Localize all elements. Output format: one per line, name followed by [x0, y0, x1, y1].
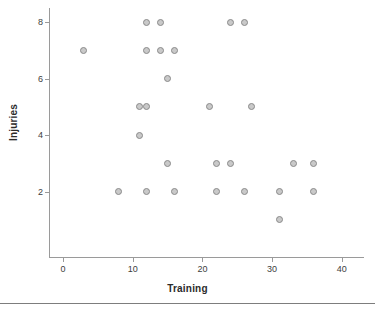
x-tick-mark	[202, 258, 203, 262]
data-point	[143, 19, 150, 26]
data-point	[164, 160, 171, 167]
scatter-plot-figure: 2468 010203040 Injuries Training	[0, 0, 375, 309]
data-point	[157, 47, 164, 54]
data-point	[157, 19, 164, 26]
x-tick-label: 20	[187, 264, 217, 274]
y-tick-mark	[45, 22, 49, 23]
data-point	[143, 188, 150, 195]
data-point	[310, 160, 317, 167]
y-axis-title: Injuries	[8, 93, 19, 153]
data-point	[213, 188, 220, 195]
x-tick-mark	[133, 258, 134, 262]
footer-divider	[0, 303, 375, 304]
y-tick-mark	[45, 192, 49, 193]
data-point	[227, 160, 234, 167]
data-point	[276, 188, 283, 195]
data-point	[213, 160, 220, 167]
data-point	[206, 103, 213, 110]
x-tick-label: 30	[257, 264, 287, 274]
x-tick-mark	[272, 258, 273, 262]
data-point	[290, 160, 297, 167]
x-tick-label: 10	[118, 264, 148, 274]
y-axis-line	[49, 8, 50, 258]
data-point	[136, 103, 143, 110]
data-point	[310, 188, 317, 195]
plot-area: 2468 010203040 Injuries Training	[0, 0, 375, 309]
x-tick-label: 0	[48, 264, 78, 274]
data-point	[115, 188, 122, 195]
data-point	[164, 75, 171, 82]
data-point	[80, 47, 87, 54]
data-point	[241, 188, 248, 195]
y-tick-label: 4	[23, 130, 43, 140]
data-point	[171, 47, 178, 54]
data-point	[248, 103, 255, 110]
data-point	[227, 19, 234, 26]
x-tick-label: 40	[327, 264, 357, 274]
x-tick-mark	[342, 258, 343, 262]
x-axis-line	[49, 257, 364, 258]
data-point	[241, 19, 248, 26]
y-tick-label: 6	[23, 74, 43, 84]
y-tick-mark	[45, 135, 49, 136]
data-point	[171, 188, 178, 195]
y-tick-label: 2	[23, 187, 43, 197]
x-axis-title: Training	[0, 283, 375, 294]
data-point	[143, 103, 150, 110]
data-point	[136, 132, 143, 139]
data-point	[276, 216, 283, 223]
y-tick-mark	[45, 79, 49, 80]
data-point	[143, 47, 150, 54]
x-tick-mark	[63, 258, 64, 262]
y-tick-label: 8	[23, 17, 43, 27]
